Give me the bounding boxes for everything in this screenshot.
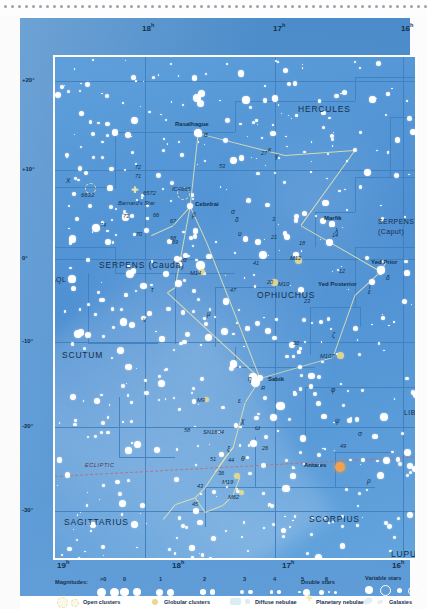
- greek-label-delta: δ: [386, 274, 390, 281]
- star: [311, 161, 312, 162]
- star: [277, 430, 278, 431]
- star: [68, 275, 76, 283]
- star: [225, 275, 227, 277]
- star: [272, 336, 276, 340]
- star: [121, 384, 125, 388]
- legend-magnitude-dot: [110, 588, 119, 597]
- star: [136, 547, 138, 549]
- star: [131, 442, 133, 444]
- flamsteed-number-47: 47: [230, 287, 236, 293]
- constellation-boundary-segment: [355, 77, 356, 101]
- star: [102, 335, 105, 338]
- star: [285, 459, 288, 462]
- legend-open-cluster-icon-2: [71, 599, 79, 607]
- legend-diffuse-nebula-icon: [230, 598, 241, 605]
- star: [115, 208, 117, 210]
- ra-tick-hour: 16: [401, 24, 410, 33]
- perforation-dot: [53, 5, 56, 8]
- star: [297, 350, 301, 354]
- legend-planetary-nebula-icon: ✚: [306, 596, 313, 602]
- star: [74, 68, 75, 69]
- star: [327, 317, 330, 320]
- star: [225, 530, 227, 532]
- star: [185, 526, 188, 529]
- perforation-dot: [46, 5, 49, 8]
- ra-tick-hour: 18: [172, 561, 181, 570]
- dec-tick-left: -30°: [22, 507, 33, 513]
- variable-star-label-r: R: [261, 385, 265, 391]
- star: [182, 340, 186, 344]
- star: [131, 117, 138, 124]
- legend-variable-filled-2: [397, 588, 402, 593]
- perforation-dot: [214, 5, 217, 8]
- perforation-dot: [172, 5, 175, 8]
- constellation-boundary-segment: [235, 101, 355, 102]
- ra-tick-unit: h: [151, 22, 154, 28]
- dso-label-m62: M62: [228, 494, 239, 500]
- dso-label-m12: M12: [290, 255, 301, 261]
- star: [140, 513, 141, 514]
- star: [85, 332, 91, 338]
- legend-magnitude-tick-2: 2: [203, 576, 206, 582]
- legend-magnitude-dot: [328, 591, 330, 593]
- star-label-cebalrai: Cebalrai: [195, 201, 219, 207]
- star: [277, 61, 279, 63]
- star: [234, 423, 238, 427]
- greek-label-beta: β: [192, 211, 196, 218]
- flamsteed-number-49: 49: [340, 443, 346, 449]
- star: [380, 413, 388, 421]
- constellation-boundary-segment: [119, 397, 120, 457]
- star: [256, 172, 259, 175]
- legend-open-clusters-label: Open clusters: [83, 599, 120, 605]
- globular-cluster-M19: [234, 473, 240, 479]
- perforation-dot: [326, 5, 329, 8]
- constellation-boundary-segment: [255, 487, 375, 488]
- legend-magnitude-tick-1: 1: [159, 576, 162, 582]
- star: [309, 384, 313, 388]
- perforation-dot: [67, 5, 70, 8]
- star: [283, 68, 288, 73]
- star: [286, 146, 287, 147]
- greek-label: κ: [268, 146, 271, 153]
- star: [272, 95, 278, 101]
- star: [285, 355, 288, 358]
- greek-label-eta: η: [248, 375, 252, 382]
- star: [387, 524, 392, 529]
- perforation-dot: [102, 5, 105, 8]
- star: [219, 452, 224, 457]
- star: [319, 320, 323, 324]
- constellation-boundary-segment: [403, 387, 417, 388]
- star: [121, 513, 124, 516]
- flamsteed-number-36: 36: [218, 470, 224, 476]
- star: [329, 221, 334, 226]
- grid-line-dec: [55, 511, 415, 512]
- star: [73, 423, 76, 426]
- star: [57, 457, 62, 462]
- constellation-boundary-segment: [355, 247, 417, 248]
- ra-tick-bottom-17: 17h: [282, 559, 294, 570]
- star: [391, 88, 392, 89]
- star: [254, 285, 256, 287]
- star: [209, 557, 212, 560]
- ra-tick-hour: 18: [142, 24, 151, 33]
- star: [226, 63, 228, 65]
- star-label-yed-prior: Yed Prior: [371, 259, 397, 265]
- star: [236, 322, 238, 324]
- constellation-boundary-segment: [335, 452, 395, 453]
- star: [245, 326, 249, 330]
- star: [270, 131, 275, 136]
- star: [291, 118, 292, 119]
- perforation-dot: [60, 5, 63, 8]
- star: [185, 332, 190, 337]
- star: [393, 321, 394, 322]
- legend-magnitudes-label: Magnitudes:: [55, 579, 88, 585]
- star: [357, 505, 359, 507]
- constellation-boundary-segment: [390, 117, 417, 118]
- legend-variable-ring-2: [408, 587, 416, 595]
- legend-variable-stars-label: Variable stars: [365, 575, 401, 581]
- constellation-boundary-segment: [205, 487, 255, 488]
- dso-label-m107: M107: [320, 353, 335, 359]
- constellation-boundary-segment: [235, 101, 236, 132]
- legend-magnitude-dot: [97, 588, 106, 597]
- perforation-dot: [291, 5, 294, 8]
